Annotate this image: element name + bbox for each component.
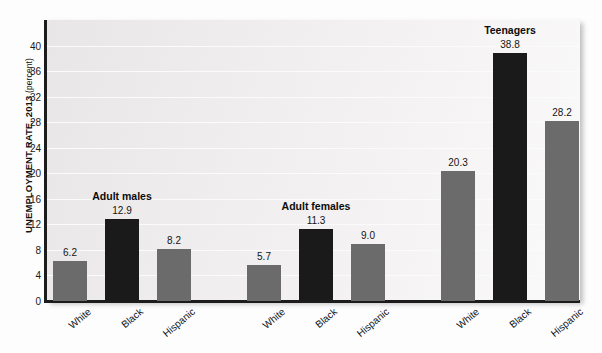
- x-axis-label-2-2: Hispanic: [549, 306, 585, 339]
- bar-2-2: [545, 121, 579, 301]
- x-axis-label-0-0: White: [66, 306, 93, 331]
- x-axis-label-2-0: White: [454, 306, 481, 331]
- group-title-0: Adult males: [92, 190, 152, 202]
- x-axis-label-1-1: Black: [313, 306, 339, 330]
- x-axis-label-0-1: Black: [119, 306, 145, 330]
- unemployment-bar-chart: UNEMPLOYMENT RATE, 2013 (percent) 048121…: [0, 0, 602, 353]
- group-title-1: Adult females: [282, 200, 351, 212]
- bar-0-0: [53, 261, 87, 301]
- bar-2-0: [441, 171, 475, 301]
- x-axis-label-1-2: Hispanic: [355, 306, 391, 339]
- bar-value-label-2-1: 38.8: [500, 39, 519, 50]
- bar-value-label-2-0: 20.3: [448, 157, 467, 168]
- bar-1-2: [351, 244, 385, 301]
- bar-value-label-0-1: 12.9: [112, 205, 131, 216]
- bar-0-2: [157, 249, 191, 301]
- x-axis-label-0-2: Hispanic: [161, 306, 197, 339]
- bar-value-label-2-2: 28.2: [552, 107, 571, 118]
- x-axis-label-1-0: White: [260, 306, 287, 331]
- bars-layer: 6.2White12.9Black8.2HispanicAdult males5…: [0, 0, 602, 353]
- bar-value-label-0-2: 8.2: [167, 235, 181, 246]
- bar-0-1: [105, 219, 139, 301]
- bar-1-1: [299, 229, 333, 301]
- bar-1-0: [247, 265, 281, 301]
- bar-2-1: [493, 53, 527, 301]
- group-title-2: Teenagers: [484, 24, 536, 36]
- bar-value-label-0-0: 6.2: [63, 247, 77, 258]
- bar-value-label-1-1: 11.3: [307, 215, 326, 226]
- x-axis-label-2-1: Black: [507, 306, 533, 330]
- bar-value-label-1-2: 9.0: [361, 230, 375, 241]
- bar-value-label-1-0: 5.7: [257, 251, 271, 262]
